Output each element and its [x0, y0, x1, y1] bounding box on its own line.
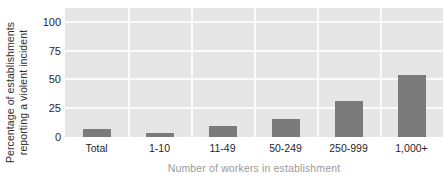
- y-axis-tick-label: 25: [32, 103, 61, 114]
- bars-group: [65, 8, 443, 137]
- x-axis-tick-labels: Total1-1011-4950-249250-9991,000+: [65, 141, 443, 157]
- bar: [209, 126, 237, 137]
- bar: [398, 75, 426, 137]
- x-axis-tick-label: 11-49: [187, 141, 259, 155]
- x-axis-title: Number of workers in establishment: [65, 162, 443, 175]
- bar: [335, 101, 363, 137]
- y-axis-tick-label: 100: [32, 16, 61, 27]
- y-axis-tick-label: 50: [32, 74, 61, 85]
- y-axis-title-line-2: reporting a violent incident: [17, 22, 30, 163]
- y-axis-tick-labels: 0255075100: [32, 8, 61, 137]
- x-axis-tick-label: 1,000+: [376, 141, 448, 155]
- y-axis-tick-label: 75: [32, 45, 61, 56]
- bar: [83, 129, 111, 137]
- y-axis-title: Percentage of establishments reporting a…: [0, 0, 34, 185]
- x-axis-tick-label: 250-999: [313, 141, 385, 155]
- x-axis-tick-label: 50-249: [250, 141, 322, 155]
- y-axis-tick-label: 0: [32, 132, 61, 143]
- bar-chart-figure: Percentage of establishments reporting a…: [0, 0, 448, 185]
- y-axis-title-line-1: Percentage of establishments: [4, 22, 17, 163]
- bar: [146, 133, 174, 137]
- x-axis-tick-label: Total: [61, 141, 133, 155]
- x-axis-tick-label: 1-10: [124, 141, 196, 155]
- bar: [272, 119, 300, 137]
- plot-area: [65, 8, 443, 137]
